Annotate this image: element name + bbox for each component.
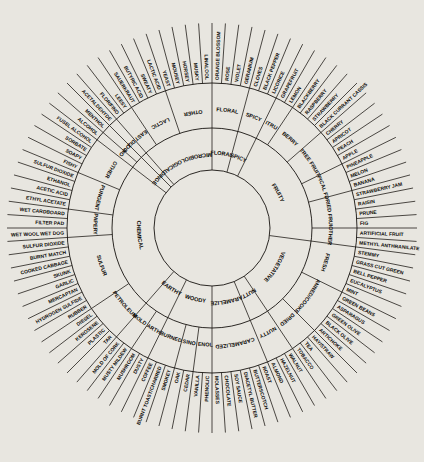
descriptor-label: PHENOLIC [203,375,210,401]
aroma-wheel-svg[interactable]: FLORALFLORALORANGE BLOSSOMROSEVIOLETGERA… [0,0,424,462]
descriptor-label: LINALOOL [203,54,210,80]
descriptor-label: FILTER PAD [35,219,64,226]
subcategory-label: PAPERY [92,213,99,235]
descriptor-label: FIG [360,220,369,226]
descriptor-label: MOLASSES [214,376,221,405]
wine-aroma-wheel-figure: FLORALFLORALORANGE BLOSSOMROSEVIOLETGERA… [0,0,424,462]
